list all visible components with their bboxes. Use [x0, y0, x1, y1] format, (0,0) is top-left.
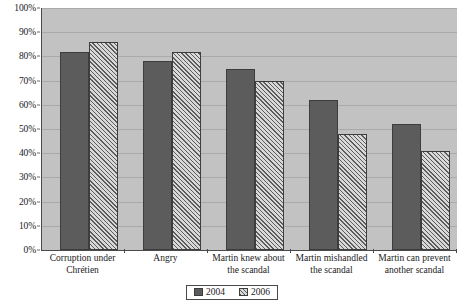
bar-2006-1[interactable] — [172, 52, 201, 250]
y-axis-tick-label: 40% — [19, 148, 36, 158]
bar-2006-2[interactable] — [255, 81, 284, 250]
y-axis-tick-label: 80% — [19, 51, 36, 61]
bar-2004-0[interactable] — [60, 52, 89, 250]
legend-item-2004[interactable]: 2004 — [194, 287, 225, 297]
y-axis-tick-label: 20% — [19, 197, 36, 207]
y-axis-tick-label: 100% — [14, 3, 36, 13]
y-axis-tick-mark — [37, 32, 40, 33]
y-axis-tick-mark — [37, 177, 40, 178]
bar-2004-4[interactable] — [392, 124, 421, 250]
y-axis-tick-label: 30% — [19, 172, 36, 182]
y-axis-tick-mark — [37, 201, 40, 202]
bar-2004-2[interactable] — [226, 69, 255, 251]
y-axis-tick-mark — [37, 225, 40, 226]
y-axis-tick-mark — [37, 8, 40, 9]
y-axis-tick-label: 90% — [19, 27, 36, 37]
bar-2004-1[interactable] — [143, 61, 172, 250]
bar-2006-0[interactable] — [89, 42, 118, 250]
legend-label: 2004 — [206, 287, 225, 297]
bar-group — [208, 8, 291, 250]
x-axis-category-line: Martin can prevent — [363, 253, 462, 265]
y-axis-tick-label: 60% — [19, 100, 36, 110]
plot-area — [41, 8, 457, 251]
legend-item-2006[interactable]: 2006 — [239, 287, 270, 297]
x-axis: Corruption underChrétienAngryMartin knew… — [41, 253, 456, 287]
x-axis-category-label: Martin can preventanother scandal — [363, 253, 462, 276]
bar-group — [42, 8, 125, 250]
legend-swatch-icon — [194, 288, 203, 296]
legend-swatch-icon — [239, 288, 248, 296]
bars-layer — [42, 8, 457, 250]
bar-2004-3[interactable] — [309, 100, 338, 250]
bar-group — [125, 8, 208, 250]
bar-group — [374, 8, 457, 250]
legend: 20042006 — [186, 285, 278, 300]
y-axis-tick-mark — [37, 250, 40, 251]
legend-label: 2006 — [251, 287, 270, 297]
x-axis-tick-mark — [456, 249, 457, 253]
y-axis-tick-mark — [37, 153, 40, 154]
y-axis: 0%10%20%30%40%50%60%70%80%90%100% — [0, 8, 40, 250]
y-axis-tick-mark — [37, 80, 40, 81]
bar-chart: 0%10%20%30%40%50%60%70%80%90%100% Corrup… — [0, 0, 462, 305]
x-axis-category-line: Chrétien — [31, 265, 134, 277]
y-axis-tick-mark — [37, 104, 40, 105]
y-axis-tick-label: 70% — [19, 76, 36, 86]
y-axis-tick-label: 10% — [19, 221, 36, 231]
y-axis-tick-label: 50% — [19, 124, 36, 134]
y-axis-tick-mark — [37, 129, 40, 130]
bar-2006-3[interactable] — [338, 134, 367, 250]
bar-2006-4[interactable] — [421, 151, 450, 250]
x-axis-category-line: another scandal — [363, 265, 462, 277]
bar-group — [291, 8, 374, 250]
y-axis-tick-mark — [37, 56, 40, 57]
